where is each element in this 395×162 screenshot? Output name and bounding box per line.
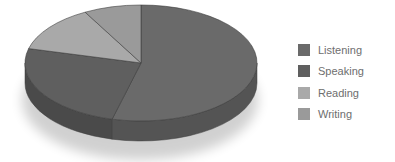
legend-item-listening: Listening [298,39,364,61]
legend: Listening Speaking Reading Writing [298,39,364,125]
legend-label: Writing [318,108,352,120]
pie-slices [25,5,257,121]
legend-swatch [298,65,310,77]
legend-label: Speaking [318,65,364,77]
legend-label: Reading [318,87,359,99]
legend-item-reading: Reading [298,82,364,104]
legend-swatch [298,87,310,99]
legend-swatch [298,108,310,120]
legend-item-speaking: Speaking [298,61,364,83]
legend-swatch [298,44,310,56]
legend-item-writing: Writing [298,104,364,126]
legend-label: Listening [318,44,362,56]
